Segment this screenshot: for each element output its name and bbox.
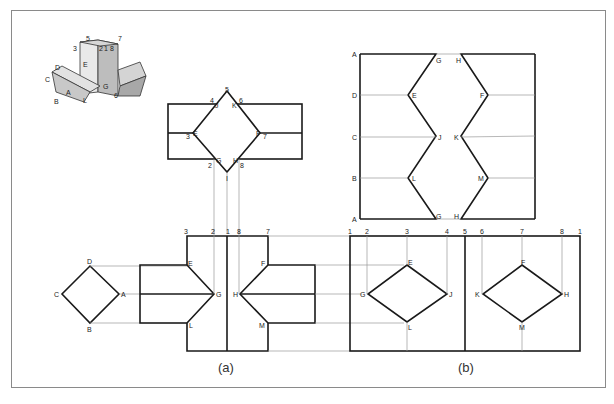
dev-v-label-1-right: 1 [578, 228, 582, 235]
dev-h-label-k: K [454, 134, 459, 141]
top-view-label-6: 6 [239, 97, 243, 104]
dev-v-label-6: 6 [480, 228, 484, 235]
top-view-label-e: E [193, 130, 198, 137]
dev-v-label-j: J [449, 291, 453, 298]
end-view-label-c: C [54, 291, 59, 298]
caption-b: (b) [458, 360, 474, 375]
end-view-label-d: D [87, 258, 92, 265]
dev-h-label-l: L [412, 175, 416, 182]
pictorial-label-3: 3 [73, 45, 77, 52]
dev-v-label-7: 7 [520, 228, 524, 235]
pictorial-label-8: 8 [110, 45, 114, 52]
pictorial-label-6: 6 [114, 92, 118, 99]
dev-v-label-4: 4 [445, 228, 449, 235]
dev-h-left-label-c: C [352, 134, 357, 141]
front-view-label-3: 3 [184, 228, 188, 235]
pictorial-label-e: E [83, 61, 88, 68]
top-view-label-4: 4 [210, 97, 214, 104]
development-horizontal: A D C B A G E J L G H F K M H [352, 51, 535, 223]
pictorial-label-g: G [103, 83, 108, 90]
dev-v-label-8: 8 [560, 228, 564, 235]
front-view-label-l: L [189, 322, 193, 329]
front-view-label-g: G [216, 291, 221, 298]
front-view: 3 2 1 8 7 E F G H L M (a) [140, 228, 404, 375]
dev-v-label-h: H [564, 291, 569, 298]
front-view-label-e: E [188, 260, 193, 267]
pictorial-label-b: B [54, 98, 59, 105]
pictorial-label-1: 1 [104, 45, 108, 52]
top-view-label-h: H [233, 157, 238, 164]
dev-h-label-g-top: G [436, 57, 441, 64]
dev-h-label-h-bottom: H [454, 213, 459, 220]
dev-v-label-f: F [521, 259, 525, 266]
front-view-label-8: 8 [237, 228, 241, 235]
dev-h-label-g-bottom: G [436, 213, 441, 220]
dev-v-label-m: M [519, 324, 525, 331]
front-view-label-h: H [233, 291, 238, 298]
top-view-label-g: G [216, 157, 221, 164]
pictorial-label-l: L [83, 97, 87, 104]
front-view-label-2: 2 [211, 228, 215, 235]
front-view-label-f: F [261, 260, 265, 267]
dev-h-label-h-top: H [456, 57, 461, 64]
pictorial-label-7: 7 [118, 35, 122, 42]
pictorial-label-5: 5 [86, 35, 90, 42]
dev-h-left-label-b: B [352, 175, 357, 182]
top-view-label-8: 8 [240, 162, 244, 169]
pictorial-label-2: 2 [99, 45, 103, 52]
pictorial-sketch: 3 5 2 1 8 7 D C E G A B L 6 [45, 35, 146, 105]
dev-v-label-2: 2 [365, 228, 369, 235]
orthographic-drawing: 3 5 2 1 8 7 D C E G A B L 6 5 4 J K 6 3 … [0, 0, 614, 404]
dev-v-label-l: L [408, 324, 412, 331]
dev-h-label-j: J [438, 134, 442, 141]
dev-h-label-m: M [478, 175, 484, 182]
dev-h-left-label-d: D [352, 92, 357, 99]
dev-h-label-f: F [480, 92, 484, 99]
front-view-label-7: 7 [266, 228, 270, 235]
top-view-label-7: 7 [263, 133, 267, 140]
top-view-label-2: 2 [208, 162, 212, 169]
top-view-label-i: I [226, 175, 228, 182]
top-view-label-f: F [256, 130, 260, 137]
dev-h-left-label-a-bottom: A [352, 216, 357, 223]
top-view-label-5: 5 [225, 86, 229, 93]
dev-h-label-e: E [412, 92, 417, 99]
dev-v-label-g: G [360, 291, 365, 298]
end-view-label-a: A [121, 291, 126, 298]
top-view-label-3: 3 [186, 133, 190, 140]
development-vertical: 1 2 3 4 5 6 7 8 1 E G J L F K H M (b) [348, 228, 582, 375]
dev-h-left-label-a-top: A [352, 51, 357, 58]
caption-a: (a) [218, 360, 234, 375]
dev-v-label-e: E [408, 259, 413, 266]
dev-v-label-k: K [475, 291, 480, 298]
pictorial-label-a: A [66, 89, 71, 96]
top-view-label-k: K [232, 102, 237, 109]
dev-v-label-1-left: 1 [348, 228, 352, 235]
end-view: D C A B [54, 258, 187, 333]
top-view: 5 4 J K 6 3 E F 7 G H 2 8 I [168, 86, 302, 234]
end-view-label-b: B [87, 326, 92, 333]
top-view-label-j: J [215, 102, 219, 109]
dev-v-label-3: 3 [405, 228, 409, 235]
dev-v-label-5: 5 [463, 228, 467, 235]
front-view-label-1: 1 [226, 228, 230, 235]
pictorial-label-c: C [45, 76, 50, 83]
pictorial-label-d: D [55, 64, 60, 71]
front-view-label-m: M [259, 322, 265, 329]
